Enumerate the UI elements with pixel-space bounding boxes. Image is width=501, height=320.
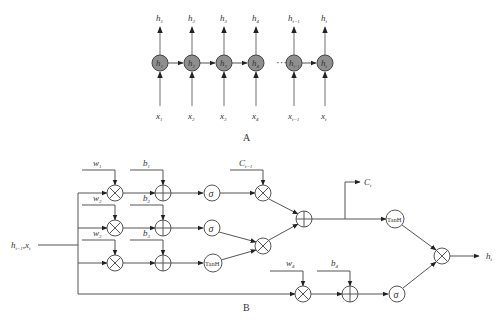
cell-state-output-arrow [345,182,360,219]
forget-mult-to-cell-plus [269,199,298,214]
sigma-gate-2: σ [204,220,220,236]
multiply-op-1 [107,185,123,201]
bias-feed-4 [317,271,350,286]
hidden-node-2: h2 [184,55,200,71]
input-label-4: x4 [251,111,259,122]
svg-text:TanH: TanH [205,260,220,267]
hidden-node-1: h1 [152,55,168,71]
input-label-t: xt [320,111,327,122]
output-label-3: h3 [220,13,228,24]
part-b-lstm-cell: ht−1,xt w1 w2 w3 w4 b1 b2 b3 b4 [11,158,493,313]
output-label-t: ht [321,13,328,24]
forget-multiply-op [255,185,271,201]
hidden-node-3: h3 [216,55,232,71]
input-label-2: x2 [187,111,195,122]
weight-feed-4 [270,271,303,286]
prev-cell-label: Ct−1 [239,158,252,169]
svg-text:TanH: TanH [387,216,402,223]
multiply-op-3 [107,255,123,271]
weight-label-3: w3 [93,228,102,239]
hidden-output-label: ht [486,251,493,262]
input-label-t-minus-1: xt−1 [287,111,299,122]
multiply-op-2 [107,220,123,236]
bias-label-4: b4 [331,258,339,269]
tanh-to-output-mult [402,225,436,250]
input-label-1: x1 [155,111,163,122]
add-op-1 [155,185,171,201]
bias-feed-3 [130,240,163,255]
weight-feed-3 [82,240,115,255]
input-mult-to-cell-plus [269,224,298,240]
bias-feed-2 [130,205,163,220]
output-multiply-op [434,248,450,264]
cell-state-output-label: Ct [364,177,372,188]
weight-label-2: w2 [93,193,102,204]
hidden-node-t-minus-1: ht−1 [286,55,302,71]
sigma4-to-output-mult [403,262,436,288]
sigma-gate-4: σ [389,286,405,302]
output-label-t-minus-1: ht−1 [288,13,300,24]
output-lines [160,27,325,55]
caption-a: A [243,132,251,143]
prev-cell-feed [230,170,263,185]
multiply-op-4 [295,286,311,302]
output-label-4: h4 [252,13,260,24]
input-lines [160,72,325,106]
add-op-4 [342,286,358,302]
weight-label-1: w1 [93,158,102,169]
bias-feed-1 [130,170,163,185]
hidden-node-t: ht [317,55,333,71]
ellipsis: ··· [276,56,287,68]
input-label-3: x3 [219,111,227,122]
tanh-to-input-mult [221,250,256,260]
part-a-unrolled-rnn: ··· h1 h2 h3 h4 ht−1 ht h1 h2 h3 h [152,13,333,143]
weight-label-4: w4 [286,258,295,269]
input-label-h-x: ht−1,xt [11,240,31,251]
hidden-node-4: h4 [248,55,264,71]
tanh-gate-candidate: TanH [204,254,222,272]
input-multiply-op [255,238,271,254]
add-op-3 [155,255,171,271]
bias-label-1: b1 [143,158,150,169]
caption-b: B [243,302,250,313]
sigma2-to-input-mult [219,232,256,242]
cell-add-op [296,211,312,227]
sigma-gate-1: σ [204,185,220,201]
weight-feed-1 [82,170,115,185]
add-op-2 [155,220,171,236]
bias-label-2: b2 [143,193,151,204]
bias-label-3: b3 [143,228,151,239]
output-label-2: h2 [188,13,196,24]
tanh-gate-output: TanH [386,210,404,228]
output-label-1: h1 [156,13,163,24]
weight-feed-2 [82,205,115,220]
lstm-diagram: ··· h1 h2 h3 h4 ht−1 ht h1 h2 h3 h [0,0,501,320]
